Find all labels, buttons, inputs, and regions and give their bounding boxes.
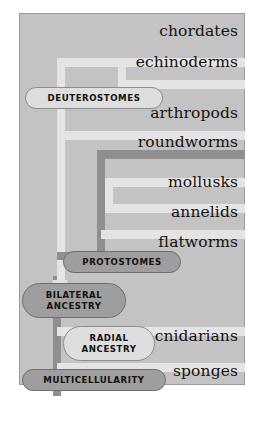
- taxon-label-mollusks: mollusks: [168, 173, 238, 191]
- node-deuterostomes-label: DEUTEROSTOMES: [48, 93, 141, 103]
- branch-roundworms: [97, 150, 245, 159]
- node-radial-ancestry-label-line2: ANCESTRY: [82, 344, 137, 354]
- taxon-label-flatworms: flatworms: [158, 233, 238, 251]
- node-bilateral-ancestry-label-line1: BILATERAL: [46, 290, 103, 300]
- taxon-label-arthropods: arthropods: [150, 104, 238, 122]
- node-bilateral-ancestry: BILATERAL ANCESTRY: [22, 283, 126, 318]
- taxon-label-roundworms: roundworms: [138, 133, 238, 151]
- taxon-label-chordates: chordates: [159, 22, 238, 40]
- node-multicellularity: MULTICELLULARITY: [22, 369, 166, 391]
- node-protostomes: PROTOSTOMES: [63, 251, 181, 273]
- node-radial-ancestry-label-line1: RADIAL: [89, 333, 128, 343]
- node-radial-ancestry: RADIAL ANCESTRY: [63, 326, 155, 361]
- node-bilateral-ancestry-label-line2: ANCESTRY: [47, 301, 102, 311]
- taxon-label-annelids: annelids: [171, 203, 238, 221]
- taxon-label-cnidarians: cnidarians: [155, 327, 238, 345]
- node-multicellularity-label: MULTICELLULARITY: [43, 375, 144, 385]
- node-protostomes-label: PROTOSTOMES: [82, 257, 161, 267]
- phylogenetic-tree-figure: chordates echinoderms arthropods roundwo…: [0, 0, 264, 428]
- node-deuterostomes: DEUTEROSTOMES: [25, 87, 163, 109]
- taxon-label-echinoderms: echinoderms: [136, 53, 238, 71]
- branch-protostome-trunk: [97, 150, 105, 260]
- taxon-label-sponges: sponges: [173, 362, 238, 380]
